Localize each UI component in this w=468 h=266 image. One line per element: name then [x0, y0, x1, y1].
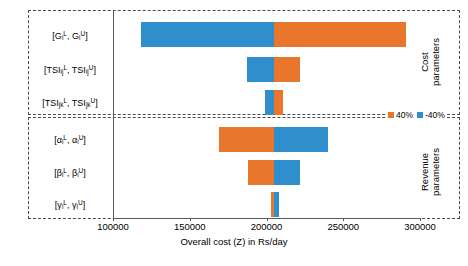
bar-tsi-ij — [247, 57, 301, 82]
category-label-tsi-jk: [TSIjkL, TSIjkU] — [28, 95, 112, 110]
x-tick-label: 100000 — [78, 221, 148, 232]
category-label-gamma: [γiL, γiU] — [28, 197, 112, 212]
legend-swatch-negative — [417, 112, 423, 118]
bar-segment-high — [274, 57, 300, 82]
bar-segment-low — [265, 90, 274, 115]
bar-segment-low — [141, 22, 275, 47]
bar-segment-high — [274, 22, 406, 47]
tornado-chart: [GiL, GiU] [TSIijL, TSIijU] [TSIjkL, TSI… — [0, 0, 468, 266]
x-axis-title: Overall cost (Z) in Rs/day — [0, 236, 468, 247]
bar-segment-high — [274, 127, 328, 152]
bar-segment-low — [248, 160, 274, 185]
bar-segment-low — [219, 127, 274, 152]
revenue-title-line2: parameters — [430, 148, 441, 196]
bar-beta — [248, 160, 300, 185]
bar-segment-high — [274, 90, 283, 115]
x-tick-label: 200000 — [232, 221, 302, 232]
legend-swatch-positive — [388, 112, 394, 118]
cost-title-line2: parameters — [430, 38, 441, 86]
x-tick-label: 300000 — [385, 221, 455, 232]
bar-tsi-jk — [265, 90, 283, 115]
legend-item-negative: -40% — [417, 110, 445, 120]
x-tick-label: 250000 — [308, 221, 378, 232]
category-label-alpha: [αiL, αiU] — [28, 132, 112, 147]
revenue-parameters-title: Revenue parameters — [398, 140, 462, 204]
category-label-tsi-ij: [TSIijL, TSIijU] — [28, 62, 112, 77]
bar-segment-high — [274, 192, 279, 217]
bar-segment-low — [247, 57, 275, 82]
y-axis-line — [113, 10, 114, 219]
cost-title-line1: Cost — [419, 38, 430, 86]
bar-gi — [141, 22, 407, 47]
legend-label-negative: -40% — [425, 110, 445, 120]
cost-parameters-title: Cost parameters — [398, 30, 462, 94]
bar-gamma — [271, 192, 279, 217]
bar-alpha — [219, 127, 328, 152]
x-tick-label: 150000 — [155, 221, 225, 232]
chart-legend: 40% -40% — [386, 109, 447, 121]
revenue-title-line1: Revenue — [419, 148, 430, 196]
category-label-gi: [GiL, GiU] — [28, 28, 112, 43]
legend-item-positive: 40% — [388, 110, 413, 120]
category-label-beta: [βiL, βiU] — [28, 165, 112, 180]
bar-segment-high — [274, 160, 300, 185]
legend-label-positive: 40% — [396, 110, 413, 120]
